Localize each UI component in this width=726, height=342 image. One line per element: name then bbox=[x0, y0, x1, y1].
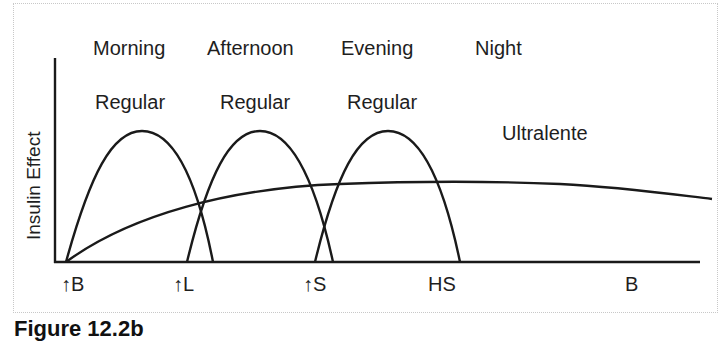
x-tick-lunch: ↑L bbox=[173, 274, 194, 294]
curve-label-regular-2: Regular bbox=[220, 92, 290, 112]
ultralente-curve bbox=[66, 182, 712, 262]
regular-curve-evening bbox=[315, 131, 460, 262]
x-tick-bedtime: HS bbox=[428, 274, 456, 294]
x-tick-supper: ↑S bbox=[303, 274, 326, 294]
curve-label-regular-3: Regular bbox=[347, 92, 417, 112]
period-label-evening: Evening bbox=[341, 38, 413, 58]
curve-label-ultralente: Ultralente bbox=[502, 123, 588, 143]
y-axis-label: Insulin Effect bbox=[24, 132, 43, 240]
period-label-afternoon: Afternoon bbox=[207, 38, 294, 58]
x-tick-breakfast: ↑B bbox=[61, 274, 84, 294]
figure-caption: Figure 12.2b bbox=[14, 316, 144, 342]
x-tick-next-breakfast: B bbox=[625, 274, 638, 294]
period-label-morning: Morning bbox=[93, 38, 165, 58]
period-label-night: Night bbox=[475, 38, 522, 58]
curve-label-regular-1: Regular bbox=[95, 92, 165, 112]
